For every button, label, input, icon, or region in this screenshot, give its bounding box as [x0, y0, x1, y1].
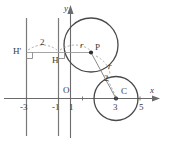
origin-label: O — [63, 86, 70, 95]
figure-canvas — [0, 0, 170, 144]
point-label-h-prime: H' — [13, 47, 21, 56]
x-tick-label-minus-3: -3 — [20, 103, 28, 112]
segment-label-radius-2: 2 — [104, 74, 109, 83]
segment-label-r-diagonal: r — [108, 62, 112, 71]
right-angle-marker-h — [59, 53, 65, 59]
point-p-marker — [89, 50, 93, 54]
x-tick-label-5: 5 — [139, 103, 144, 112]
x-axis — [4, 95, 160, 101]
x-tick-label-1: 1 — [69, 103, 74, 112]
y-axis-label: y — [64, 4, 68, 13]
right-angle-marker-hprime — [27, 53, 33, 59]
segment-label-r-horizontal: r — [80, 41, 84, 50]
point-label-p: P — [95, 43, 100, 52]
geometry-figure: y x O -3 -1 1 3 5 H' H P C 2 r r 2 — [0, 0, 170, 144]
segment-label-distance-2: 2 — [40, 38, 45, 47]
x-tick-label-3: 3 — [113, 103, 118, 112]
x-tick-label-minus-1: -1 — [52, 103, 60, 112]
point-label-h: H — [52, 56, 59, 65]
x-axis-label: x — [150, 86, 154, 95]
point-label-c: C — [121, 87, 127, 96]
